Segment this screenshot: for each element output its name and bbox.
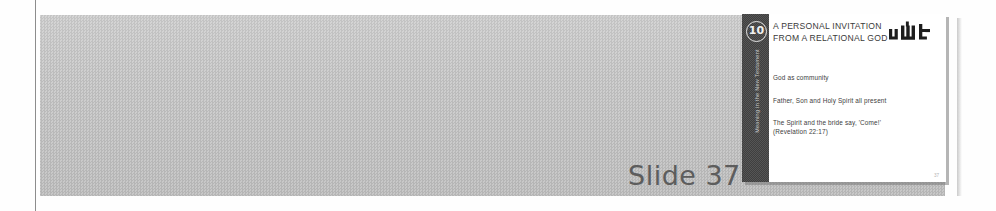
slide-thumbnail[interactable]: 10 Meaning in the New Testament A PERSON… [742,14,946,182]
slide-side-rail: 10 Meaning in the New Testament [742,14,769,182]
slide-title-line-2: FROM A RELATIONAL GOD [773,33,903,45]
slide-bullet-3-reference: (Revelation 22:17) [773,128,938,137]
slide-bullet-2-text: Father, Son and Holy Spirit all present [773,97,886,104]
slide-page-number: 37 [934,173,939,178]
slide-content: A PERSONAL INVITATION FROM A RELATIONAL … [769,14,946,182]
slide-bullet-3: The Spirit and the bride say, 'Come!' (R… [773,119,938,136]
slide-caption: Slide37 [628,160,741,191]
slide-title-line-1: A PERSONAL INVITATION [773,21,903,33]
page-edge-shadow [957,18,962,196]
slide-bullet-1-text: God as community [773,74,829,81]
slide-bullet-1: God as community [773,74,938,83]
slide-bullet-list: God as community Father, Son and Holy Sp… [773,74,938,150]
slide-series-text: Meaning in the New Testament [754,32,760,150]
wlt-logo-icon [888,20,932,44]
slide-caption-number: 37 [705,160,740,191]
slide-title: A PERSONAL INVITATION FROM A RELATIONAL … [773,21,903,44]
slide-caption-label: Slide [628,160,696,191]
slide-bullet-3-text: The Spirit and the bride say, 'Come!' [773,119,881,126]
slide-bullet-2: Father, Son and Holy Spirit all present [773,97,938,106]
scanned-page: Slide37 10 Meaning in the New Testament … [0,0,996,211]
page-margin-rule [35,0,36,211]
